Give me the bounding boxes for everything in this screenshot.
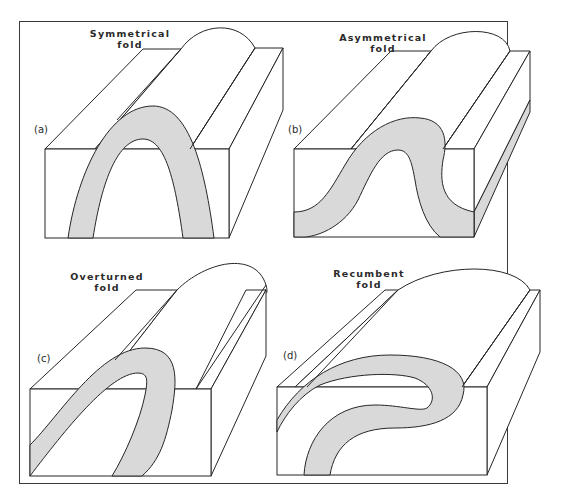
- panel-d-recumbent-fold-block: [277, 269, 540, 475]
- panel-c-title-line1: Overturned: [57, 271, 157, 282]
- panel-b-tag: (b): [288, 124, 302, 135]
- panel-c-tag: (c): [37, 353, 50, 364]
- panel-b-title-line2: fold: [333, 43, 433, 54]
- panel-d-title-line1: Recumbent: [319, 268, 419, 279]
- panel-c-overturned-fold-block: [30, 263, 267, 476]
- panel-d-tag: (d): [283, 350, 297, 361]
- fold-types-figure: Symmetrical fold Asymmetrical fold Overt…: [0, 0, 567, 496]
- panel-d-title: Recumbent fold: [319, 268, 419, 290]
- panel-a-tag: (a): [34, 124, 48, 135]
- panel-c-title-line2: fold: [57, 282, 157, 293]
- panel-c-title: Overturned fold: [57, 271, 157, 293]
- panel-a-title-line1: Symmetrical: [80, 28, 180, 39]
- panel-b-title-line1: Asymmetrical: [333, 32, 433, 43]
- panel-d-title-line2: fold: [319, 279, 419, 290]
- fold-diagrams: [0, 0, 567, 496]
- panel-a-title-line2: fold: [80, 39, 180, 50]
- panel-a-title: Symmetrical fold: [80, 28, 180, 50]
- panel-a-symmetrical-fold-block: [45, 28, 283, 238]
- panel-b-asymmetrical-fold-block: [294, 32, 530, 238]
- panel-b-title: Asymmetrical fold: [333, 32, 433, 54]
